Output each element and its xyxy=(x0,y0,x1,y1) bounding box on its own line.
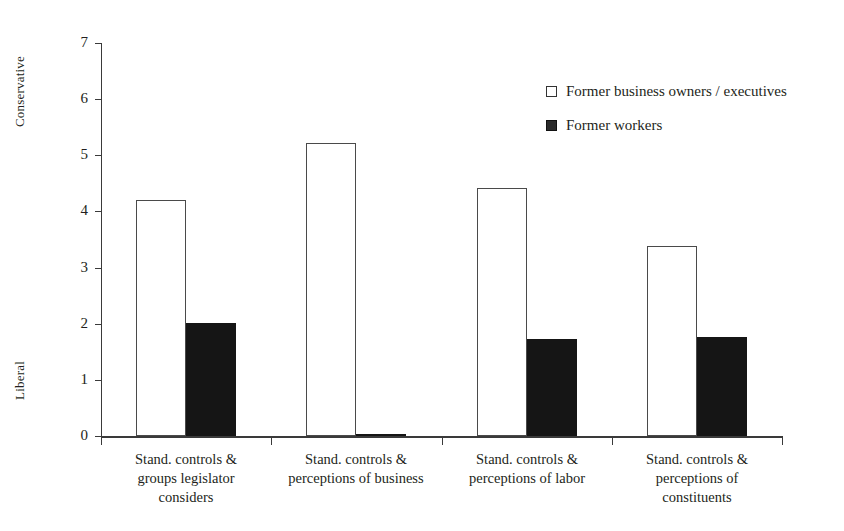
y-axis-tick-mark xyxy=(95,99,101,100)
y-axis-tick-label: 6 xyxy=(60,91,88,106)
y-axis-tick-label: 1 xyxy=(60,372,88,387)
x-axis-label-line: perceptions of business xyxy=(271,469,441,488)
y-axis-tick-label: 7 xyxy=(60,35,88,50)
legend-item-label: Former workers xyxy=(566,118,662,133)
x-axis-label-line: groups legislator xyxy=(101,469,271,488)
hollow-square-icon xyxy=(546,86,557,97)
filled-square-icon xyxy=(546,120,557,131)
x-axis-separator-tick xyxy=(612,436,613,445)
legend-item-2[interactable]: Former workers xyxy=(546,108,787,142)
bar-owners-3 xyxy=(477,188,527,436)
y-axis-tick-mark xyxy=(95,155,101,156)
y-axis-tick-label: 4 xyxy=(60,203,88,218)
x-axis-label-1: Stand. controls &groups legislatorconsid… xyxy=(101,450,271,507)
y-axis-line xyxy=(101,43,102,437)
bar-owners-2 xyxy=(306,143,356,436)
x-axis-label-2: Stand. controls &perceptions of business xyxy=(271,450,441,488)
y-axis-tick-label: 3 xyxy=(60,260,88,275)
x-axis-label-line: constituents xyxy=(612,488,782,507)
x-axis-label-line: Stand. controls & xyxy=(101,450,271,469)
bar-workers-2 xyxy=(356,434,406,436)
legend-item-label: Former business owners / executives xyxy=(566,84,787,99)
x-axis-separator-tick xyxy=(271,436,272,445)
legend-item-1[interactable]: Former business owners / executives xyxy=(546,74,787,108)
x-axis-label-line: considers xyxy=(101,488,271,507)
x-axis-label-line: Stand. controls & xyxy=(612,450,782,469)
y-axis-tick-label: 5 xyxy=(60,147,88,162)
x-axis-separator-tick xyxy=(442,436,443,445)
y-axis-tick-label: 0 xyxy=(60,428,88,443)
y-axis-tick-mark xyxy=(95,211,101,212)
x-axis-separator-tick xyxy=(101,436,102,445)
x-axis-label-line: perceptions of labor xyxy=(442,469,612,488)
bar-owners-1 xyxy=(136,200,186,436)
y-axis-tick-label: 2 xyxy=(60,316,88,331)
y-axis-caption-liberal: Liberal xyxy=(12,361,28,400)
bar-chart-figure: Conservative Liberal 01234567 Stand. con… xyxy=(0,0,844,531)
y-axis-tick-mark xyxy=(95,268,101,269)
bar-owners-4 xyxy=(647,246,697,436)
x-axis-label-line: Stand. controls & xyxy=(271,450,441,469)
y-axis-tick-mark xyxy=(95,324,101,325)
x-axis-label-line: Stand. controls & xyxy=(442,450,612,469)
y-axis-tick-mark xyxy=(95,380,101,381)
bar-workers-3 xyxy=(527,339,577,436)
y-axis-tick-mark xyxy=(95,43,101,44)
chart-legend: Former business owners / executivesForme… xyxy=(546,74,787,142)
bar-workers-4 xyxy=(697,337,747,436)
x-axis-label-3: Stand. controls &perceptions of labor xyxy=(442,450,612,488)
y-axis-caption-conservative: Conservative xyxy=(12,56,28,127)
x-axis-label-line: perceptions of xyxy=(612,469,782,488)
bar-workers-1 xyxy=(186,323,236,436)
x-axis-label-4: Stand. controls &perceptions ofconstitue… xyxy=(612,450,782,507)
x-axis-separator-tick xyxy=(782,436,783,445)
